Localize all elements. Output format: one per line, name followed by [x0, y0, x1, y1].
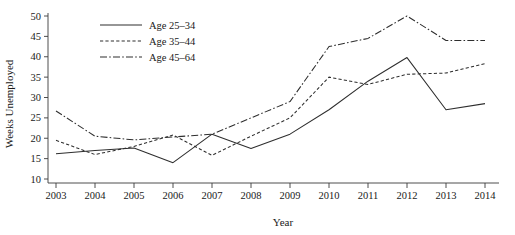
y-tick-label: 20: [31, 133, 42, 144]
y-tick-label: 40: [31, 51, 42, 62]
x-axis: 2003200420052006200720082009201020112012…: [46, 183, 500, 201]
chart-canvas: 101520253035404550 200320042005200620072…: [0, 0, 515, 235]
x-tick-label: 2007: [202, 190, 223, 201]
x-tick-label: 2003: [46, 190, 67, 201]
y-tick-label: 15: [31, 153, 42, 164]
x-tick-label: 2008: [241, 190, 262, 201]
y-tick-label: 30: [31, 92, 42, 103]
y-tick-label: 25: [31, 112, 42, 123]
chart-legend: Age 25–34Age 35–44Age 45–64: [100, 20, 196, 63]
y-axis-title: Weeks Unemployed: [3, 59, 15, 148]
legend-label-1: Age 25–34: [149, 20, 196, 31]
legend-label-2: Age 35–44: [149, 36, 196, 47]
x-tick-label: 2014: [475, 190, 497, 201]
line-chart: 101520253035404550 200320042005200620072…: [0, 0, 515, 235]
x-tick-label: 2012: [397, 190, 418, 201]
x-tick-label: 2010: [319, 190, 340, 201]
data-series-group: [56, 16, 485, 163]
y-tick-label: 10: [31, 174, 42, 185]
x-tick-label: 2005: [124, 190, 145, 201]
y-axis: 101520253035404550: [31, 11, 49, 185]
x-axis-title: Year: [273, 216, 294, 228]
legend-label-3: Age 45–64: [149, 52, 196, 63]
x-tick-label: 2013: [436, 190, 457, 201]
y-tick-label: 50: [31, 11, 42, 22]
x-tick-label: 2006: [163, 190, 184, 201]
y-tick-label: 45: [31, 31, 42, 42]
x-tick-label: 2011: [358, 190, 379, 201]
y-tick-label: 35: [31, 72, 42, 83]
x-tick-label: 2009: [280, 190, 301, 201]
series-line-3: [56, 16, 485, 140]
x-tick-label: 2004: [85, 190, 107, 201]
